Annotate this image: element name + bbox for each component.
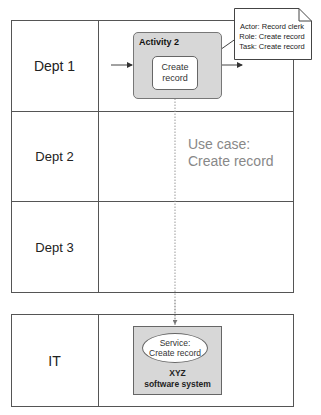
use-case-label: Use case: Create record bbox=[188, 136, 274, 170]
software-name-line1: XYZ bbox=[133, 368, 222, 379]
activity-title: Activity 2 bbox=[139, 37, 179, 47]
task-label-line1: Create bbox=[161, 62, 188, 73]
note-actor: Actor: Record clerk bbox=[236, 22, 308, 32]
service-line2: Create record bbox=[149, 348, 201, 359]
service-ellipse[interactable]: Service: Create record bbox=[142, 333, 208, 363]
it-lane-divider bbox=[98, 314, 99, 407]
service-line1: Service: bbox=[149, 338, 201, 349]
note-role: Role: Create record bbox=[236, 32, 308, 42]
software-name-line2: software system bbox=[133, 379, 222, 390]
use-case-line2: Create record bbox=[188, 153, 274, 170]
note-task: Task: Create record bbox=[236, 42, 308, 52]
actor-role-task-note: Actor: Record clerk Role: Create record … bbox=[236, 22, 308, 52]
lane-label-it: IT bbox=[11, 314, 98, 407]
use-case-line1: Use case: bbox=[188, 136, 274, 153]
create-record-task[interactable]: Create record bbox=[152, 56, 198, 90]
task-label-line2: record bbox=[161, 73, 188, 84]
software-system-name: XYZ software system bbox=[133, 368, 222, 390]
